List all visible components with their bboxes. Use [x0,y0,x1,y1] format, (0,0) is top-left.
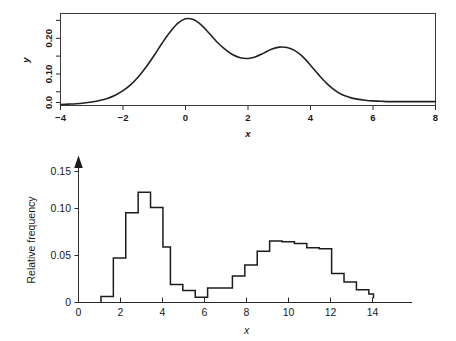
bottom-x-ticklabel-3: 6 [202,306,208,318]
bottom-x-ticks [79,298,373,303]
top-plot-frame [61,14,436,106]
top-density-panel: 0.20 0.10 0.0 y −4 −2 0 2 [20,14,438,140]
bottom-x-ticklabel-2: 4 [160,306,166,318]
density-curve [61,18,436,104]
bottom-y-axis-label: Relative frequency [25,196,37,284]
bottom-x-ticklabel-1: 2 [118,306,124,318]
figure-svg: 0.20 0.10 0.0 y −4 −2 0 2 [0,0,456,341]
top-y-ticklabel-2: 0.0 [43,96,54,109]
top-x-ticklabel-2: 0 [183,112,188,123]
top-x-ticklabel-1: −2 [118,112,129,123]
bottom-x-ticklabel-5: 10 [283,306,295,318]
top-y-ticklabel-1: 0.10 [43,65,54,84]
figure-container: 0.20 0.10 0.0 y −4 −2 0 2 [0,0,456,341]
bottom-x-ticklabel-7: 14 [367,306,379,318]
bottom-y-ticklabel-3: 0.15 [51,165,72,177]
top-x-ticklabel-3: 2 [245,112,250,123]
bottom-x-ticklabel-0: 0 [76,306,82,318]
top-x-ticklabel-5: 6 [370,112,375,123]
bottom-y-ticklabel-2: 0.10 [51,202,72,214]
top-y-ticklabels: 0.20 0.10 0.0 [43,29,54,109]
bottom-histogram-panel: 0 0.05 0.10 0.15 Relative frequency 0 [25,156,412,337]
bottom-y-ticklabel-0: 0 [65,296,71,308]
y-axis-arrow-icon [74,156,83,169]
top-x-ticklabel-6: 8 [433,112,438,123]
bottom-x-ticklabel-4: 8 [244,306,250,318]
top-y-ticks [56,20,61,102]
bottom-y-ticklabels: 0 0.05 0.10 0.15 [51,165,72,308]
top-y-ticklabel-0: 0.20 [43,29,54,48]
top-x-ticklabels: −4 −2 0 2 4 6 8 [55,112,438,123]
top-y-axis-label: y [20,57,31,64]
top-x-axis-label: x [244,128,251,139]
bottom-x-axis-label: x [243,324,250,336]
bottom-y-ticks [75,172,79,303]
bottom-x-ticklabel-6: 12 [325,306,337,318]
top-x-ticks [61,106,436,111]
bottom-y-ticklabel-1: 0.05 [51,249,72,261]
histogram-outline [101,192,374,302]
top-x-ticklabel-4: 4 [308,112,314,123]
top-x-ticklabel-0: −4 [55,112,67,123]
bottom-x-ticklabels: 0 2 4 6 8 10 12 14 [76,306,379,318]
